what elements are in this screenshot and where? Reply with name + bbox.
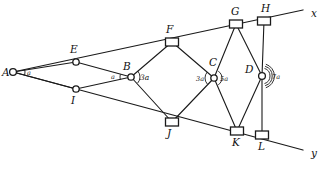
point-marker-H-square <box>258 17 271 25</box>
rays-layer <box>13 10 303 150</box>
ray-label-x: x <box>311 7 317 19</box>
point-label-E: E <box>69 43 78 55</box>
angle-label-angle-C-right: 5a <box>220 75 228 83</box>
point-label-A: A <box>1 66 10 78</box>
angle-label-angle-C-left: 3a <box>196 75 204 83</box>
point-marker-G-square <box>230 20 243 28</box>
point-marker-E-circle <box>73 59 79 65</box>
segment-CK <box>214 78 237 131</box>
point-label-D: D <box>244 63 254 75</box>
segment-DH <box>262 21 264 76</box>
angle-label-angle-B-left: a <box>111 73 115 81</box>
diagram-canvas: AEIBCDFGHJKL aa3a3a5a7a xy <box>0 0 326 173</box>
point-marker-K-square <box>231 127 244 135</box>
ray-labels-layer: xy <box>310 7 318 159</box>
geometry-diagram: AEIBCDFGHJKL aa3a3a5a7a xy <box>0 0 326 173</box>
ray-label-y: y <box>310 147 318 159</box>
segment-JC <box>172 78 214 122</box>
segment-FC <box>172 42 214 78</box>
point-label-F: F <box>165 23 174 35</box>
segment-CG <box>214 24 236 78</box>
point-marker-F-square <box>166 38 179 46</box>
point-marker-I-circle <box>73 86 79 92</box>
point-label-B: B <box>122 60 131 72</box>
segment-BF <box>131 42 172 77</box>
angle-label-angle-D-right: 7a <box>272 73 280 81</box>
point-marker-L-square <box>256 131 269 139</box>
angle-labels-layer: aa3a3a5a7a <box>27 69 280 83</box>
angle-arcs-layer <box>25 64 275 88</box>
angle-C-left-arc-1 <box>205 72 207 84</box>
point-marker-B-circle <box>128 74 134 80</box>
point-label-J: J <box>165 127 172 139</box>
point-marker-J-square <box>166 118 179 126</box>
angle-label-angle-A: a <box>27 69 31 77</box>
point-label-H: H <box>260 2 271 14</box>
point-label-K: K <box>231 136 241 148</box>
segment-KD <box>237 76 262 131</box>
point-marker-A-circle <box>10 69 17 76</box>
point-marker-C-circle <box>211 75 217 81</box>
point-marker-D-circle <box>259 73 266 80</box>
point-label-L: L <box>257 140 265 152</box>
point-label-G: G <box>231 5 239 17</box>
angle-label-angle-B-right: 3a <box>140 73 149 82</box>
segment-AE <box>13 62 76 72</box>
point-label-C: C <box>209 56 217 68</box>
segment-IB <box>76 77 131 89</box>
segment-BJ <box>131 77 172 122</box>
point-label-I: I <box>70 94 76 106</box>
segment-AI <box>13 72 76 89</box>
